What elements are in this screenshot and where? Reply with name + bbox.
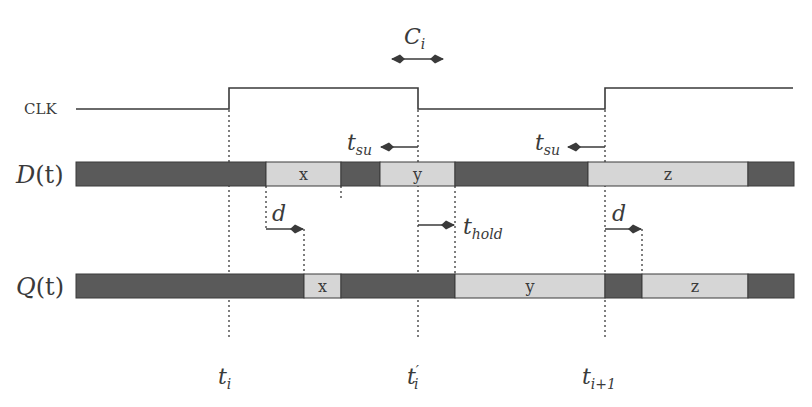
time-label-ti-plus-1: ti+1: [582, 364, 616, 392]
tsu-label: tsu: [535, 130, 560, 158]
invalid-segment: [748, 274, 794, 298]
hold-time-annotation: thold: [418, 214, 503, 242]
invalid-segment: [748, 162, 794, 186]
time-axis-labels: ti t′i ti+1: [218, 363, 616, 392]
timing-diagram: CLK D(t) xyz Q(t) xyz Ci tsu tsu d d tho…: [0, 0, 812, 407]
tsu-label: tsu: [347, 130, 372, 158]
c-i-label: Ci: [404, 24, 425, 52]
invalid-segment: [76, 274, 304, 298]
d-signal: D(t) xyz: [15, 161, 794, 189]
time-label-ti: ti: [218, 364, 231, 392]
delay-annotation-2: d: [605, 201, 641, 229]
q-bus: xyz: [76, 274, 794, 298]
segment-value-label: y: [524, 277, 534, 296]
invalid-segment: [455, 162, 588, 186]
d-bus: xyz: [76, 162, 794, 186]
setup-time-annotation-2: tsu: [535, 130, 605, 158]
delay-annotation-1: d: [266, 201, 303, 229]
q-label: Q(t): [16, 273, 64, 301]
segment-value-label: z: [691, 277, 699, 296]
clk-signal: CLK: [24, 88, 793, 118]
invalid-segment: [76, 162, 266, 186]
segment-value-label: y: [412, 165, 422, 184]
thold-label: thold: [463, 214, 503, 242]
setup-time-annotation-1: tsu: [347, 130, 418, 158]
invalid-segment: [341, 274, 455, 298]
q-signal: Q(t) xyz: [16, 273, 794, 301]
d-delay-label: d: [612, 201, 626, 226]
segment-value-label: x: [318, 277, 327, 296]
segment-value-label: z: [664, 165, 672, 184]
clock-period-annotation: Ci: [392, 24, 443, 59]
d-label: D(t): [15, 161, 64, 189]
clk-waveform: [76, 88, 793, 109]
clk-label: CLK: [24, 100, 57, 118]
invalid-segment: [341, 162, 380, 186]
invalid-segment: [605, 274, 642, 298]
segment-value-label: x: [299, 165, 308, 184]
time-label-ti-prime: t′i: [407, 363, 420, 392]
d-delay-label: d: [272, 201, 286, 226]
